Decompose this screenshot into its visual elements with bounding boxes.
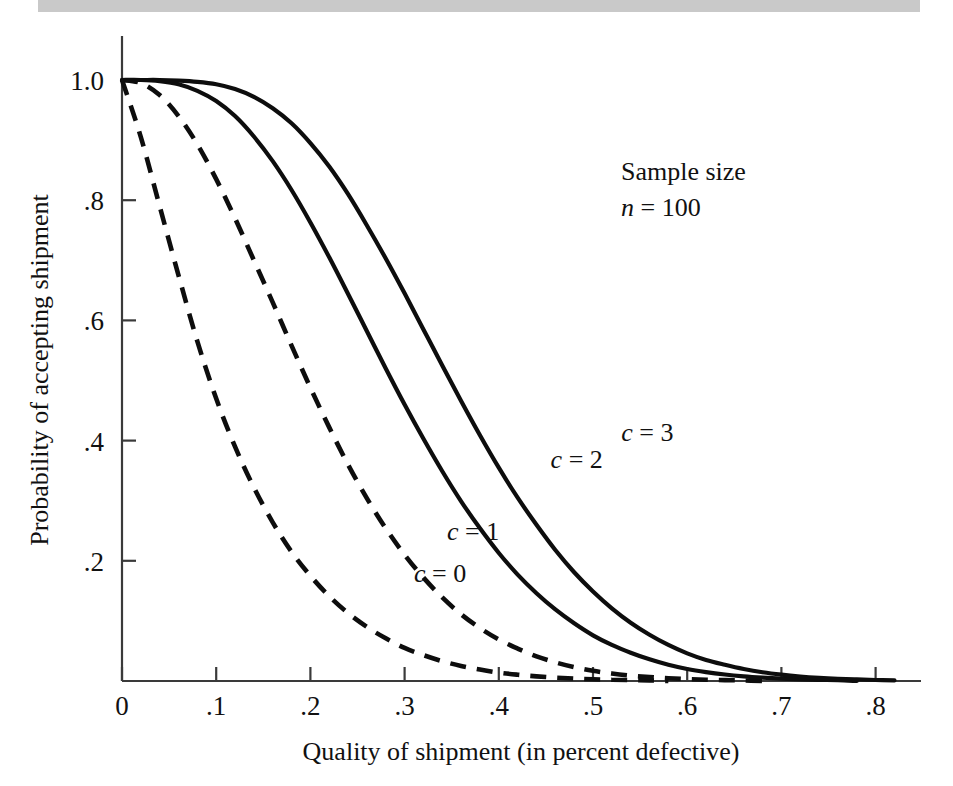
curve-annotations: c = 0c = 1c = 2c = 3 <box>414 418 673 588</box>
sample-size-label-line1: Sample size <box>621 157 746 186</box>
curve-paths <box>122 80 894 681</box>
curve-label-symbol-0: c <box>414 559 426 588</box>
x-tick-label-3: .3 <box>394 691 414 721</box>
axes-group <box>122 36 921 681</box>
curve-label-symbol-2: c <box>551 445 563 474</box>
curve-c-3 <box>122 80 894 680</box>
oc-curve-chart: 0.1.2.3.4.5.6.7.8 .2.4.6.81.0 c = 0c = 1… <box>0 0 953 786</box>
curve-label-c-1: c = 1 <box>447 517 499 546</box>
x-tick-label-4: .4 <box>489 691 510 721</box>
x-axis-title: Quality of shipment (in percent defectiv… <box>303 737 740 766</box>
y-tick-label-3: .8 <box>84 186 104 216</box>
curve-label-value-0: = 0 <box>426 559 467 588</box>
y-tick-labels: .2.4.6.81.0 <box>70 66 104 577</box>
curve-label-value-1: = 1 <box>459 517 500 546</box>
curve-label-symbol-3: c <box>621 418 633 447</box>
curve-label-symbol-1: c <box>447 517 459 546</box>
sample-size-n-value: = 100 <box>634 193 701 222</box>
y-axis-title: Probability of accepting shipment <box>25 193 54 545</box>
y-tick-label-4: 1.0 <box>70 66 104 96</box>
curve-label-value-2: = 2 <box>562 445 603 474</box>
x-tick-label-0: 0 <box>115 691 129 721</box>
y-tick-label-0: .2 <box>84 547 104 577</box>
y-tick-label-2: .6 <box>84 306 104 336</box>
sample-size-label-line2: n = 100 <box>621 193 701 222</box>
x-tick-label-8: .8 <box>865 691 885 721</box>
x-tick-label-1: .1 <box>206 691 226 721</box>
curve-label-c-2: c = 2 <box>551 445 603 474</box>
chart-page: 0.1.2.3.4.5.6.7.8 .2.4.6.81.0 c = 0c = 1… <box>0 0 953 786</box>
curve-c-2 <box>122 80 857 681</box>
sample-size-n-symbol: n <box>621 193 634 222</box>
x-tick-label-6: .6 <box>677 691 697 721</box>
curve-label-value-3: = 3 <box>633 418 674 447</box>
y-tick-marks <box>122 200 136 561</box>
x-tick-label-5: .5 <box>583 691 603 721</box>
curve-label-c-3: c = 3 <box>621 418 673 447</box>
y-tick-label-1: .4 <box>84 427 105 457</box>
x-tick-label-7: .7 <box>771 691 791 721</box>
curve-c-0 <box>122 80 668 681</box>
x-tick-labels: 0.1.2.3.4.5.6.7.8 <box>115 691 885 721</box>
x-tick-label-2: .2 <box>300 691 320 721</box>
curve-label-c-0: c = 0 <box>414 559 466 588</box>
